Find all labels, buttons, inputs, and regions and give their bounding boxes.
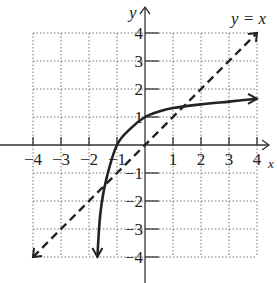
x-tick-label: −2: [80, 150, 98, 169]
y-tick-label: 3: [135, 52, 144, 71]
x-tick-label: 4: [253, 150, 262, 169]
x-tick-label: 2: [197, 150, 206, 169]
x-tick-label: 1: [169, 150, 178, 169]
y-tick-label: 4: [135, 24, 144, 43]
graph: −4−3−2−112344321−1−2−3−4 y = x y x: [0, 0, 277, 283]
x-tick-label: −3: [52, 150, 70, 169]
y-tick-label: −2: [125, 192, 143, 211]
y-tick-label: 2: [135, 80, 144, 99]
x-tick-label: −4: [24, 150, 43, 169]
x-axis-label: x: [267, 156, 274, 171]
y-axis-label: y: [127, 3, 137, 22]
curve-line: [97, 99, 257, 257]
y-tick-label: −1: [125, 164, 143, 183]
x-tick-label: 3: [225, 150, 234, 169]
y-tick-label: −4: [125, 248, 144, 267]
y-tick-label: −3: [125, 220, 143, 239]
line-annotation: y = x: [229, 9, 267, 28]
